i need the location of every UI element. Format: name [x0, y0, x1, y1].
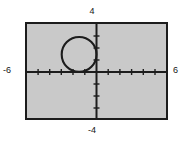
graph-screenshot: 4 -4 -6 6: [0, 0, 185, 141]
x-max-label: 6: [173, 66, 178, 75]
y-min-label: -4: [0, 126, 185, 135]
x-min-label: -6: [3, 66, 11, 75]
graph-canvas: [27, 24, 166, 118]
y-max-label: 4: [0, 7, 185, 16]
graph-viewing-window: [25, 22, 168, 120]
plotted-circle: [62, 37, 97, 72]
